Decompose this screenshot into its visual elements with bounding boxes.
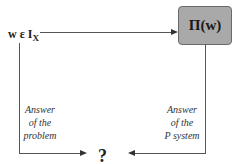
top-arrow-line bbox=[40, 32, 172, 33]
box-label: Π(w) bbox=[189, 17, 222, 34]
right-label-line-2: of the bbox=[160, 116, 204, 129]
input-text: w ε I bbox=[8, 27, 32, 41]
p-system-box: Π(w) bbox=[178, 6, 232, 45]
left-bottom-line bbox=[19, 153, 82, 154]
left-label-line-3: problem bbox=[22, 129, 58, 142]
left-label-line-2: of the bbox=[22, 116, 58, 129]
input-label: w ε IX bbox=[8, 27, 39, 43]
right-edge-label: Answer of the P system bbox=[160, 103, 204, 142]
left-arrowhead-icon bbox=[80, 150, 87, 156]
input-subscript: X bbox=[32, 33, 39, 43]
left-label-line-1: Answer bbox=[22, 103, 58, 116]
right-label-line-3: P system bbox=[160, 129, 204, 142]
right-vertical-line bbox=[205, 44, 206, 154]
top-arrowhead-icon bbox=[171, 29, 178, 35]
right-arrowhead-icon bbox=[128, 150, 135, 156]
result-question-mark: ? bbox=[98, 146, 107, 164]
right-label-line-1: Answer bbox=[160, 103, 204, 116]
left-edge-label: Answer of the problem bbox=[22, 103, 58, 142]
right-bottom-line bbox=[134, 153, 206, 154]
left-vertical-line bbox=[19, 43, 20, 154]
